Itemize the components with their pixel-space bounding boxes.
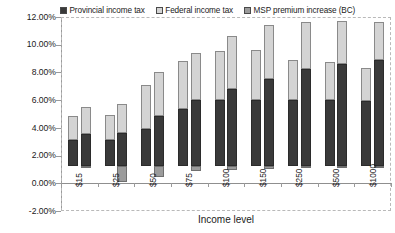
- bar-segment-federal: [81, 107, 91, 135]
- chart-container: Provincial income taxFederal income taxM…: [0, 0, 395, 233]
- bar-segment-msp: [81, 166, 91, 168]
- stacked-bar: [288, 0, 298, 194]
- x-axis-tick: [134, 183, 135, 187]
- bar-segment-federal: [227, 36, 237, 89]
- bar-segment-federal: [337, 21, 347, 64]
- bar-segment-provincial: [105, 140, 115, 166]
- bar-group: [61, 0, 98, 194]
- x-axis-tick: [208, 183, 209, 187]
- bar-segment-provincial: [215, 100, 225, 167]
- bar-segment-provincial: [191, 100, 201, 167]
- x-axis-category-label: $150: [259, 169, 267, 187]
- y-axis-tick-label: 12.00%: [4, 13, 56, 22]
- stacked-bar: [191, 0, 201, 194]
- bar-segment-federal: [374, 22, 384, 59]
- bar-segment-provincial: [178, 109, 188, 166]
- bar-segment-federal: [191, 53, 201, 100]
- bar-segment-provincial: [117, 133, 127, 166]
- bar-segment-federal: [105, 115, 115, 140]
- bar-group: [318, 0, 355, 194]
- bar-segment-federal: [117, 104, 127, 133]
- stacked-bar: [154, 0, 164, 194]
- bar-segment-provincial: [141, 129, 151, 166]
- stacked-bar: [105, 0, 115, 194]
- stacked-bar: [178, 0, 188, 194]
- x-axis-tick: [391, 183, 392, 187]
- stacked-bar: [301, 0, 311, 194]
- x-axis-category-label: $250: [295, 169, 303, 187]
- bar-segment-msp: [191, 166, 201, 171]
- bar-group: [281, 0, 318, 194]
- bar-segment-federal: [361, 68, 371, 101]
- bar-segment-federal: [154, 72, 164, 116]
- bar-group: [98, 0, 135, 194]
- bar-segment-federal: [251, 50, 261, 100]
- stacked-bar: [68, 0, 78, 194]
- bar-group: [244, 0, 281, 194]
- x-axis-category-label: $1000: [369, 164, 377, 187]
- bar-group: [134, 0, 171, 194]
- bar-segment-federal: [301, 22, 311, 69]
- y-axis-tick-label: 10.00%: [4, 40, 56, 49]
- x-axis-category-label: $100: [222, 169, 230, 187]
- x-axis-category-label: $75: [185, 173, 193, 187]
- bar-segment-provincial: [154, 116, 164, 166]
- bar-segment-provincial: [264, 79, 274, 166]
- bar-segment-provincial: [81, 134, 91, 166]
- x-axis-category-label: $50: [149, 173, 157, 187]
- stacked-bar: [81, 0, 91, 194]
- stacked-bar: [141, 0, 151, 194]
- y-axis-tick-label: 6.00%: [4, 96, 56, 105]
- bar-segment-provincial: [251, 100, 261, 167]
- bar-segment-provincial: [374, 60, 384, 167]
- x-axis-category-label: $15: [75, 173, 83, 187]
- x-axis-tick: [354, 183, 355, 187]
- bar-segment-federal: [178, 61, 188, 110]
- bar-segment-federal: [215, 51, 225, 100]
- x-axis-tick: [61, 183, 62, 187]
- stacked-bar: [325, 0, 335, 194]
- stacked-bar: [337, 0, 347, 194]
- bar-segment-provincial: [227, 89, 237, 167]
- bar-segment-federal: [288, 60, 298, 100]
- stacked-bar: [264, 0, 274, 194]
- y-axis-tick-label: -2.00%: [4, 207, 56, 216]
- y-axis-tick: [56, 211, 61, 212]
- x-axis-category-label: $500: [332, 169, 340, 187]
- x-axis-tick: [318, 183, 319, 187]
- x-axis-tick: [244, 183, 245, 187]
- y-axis-tick-label: 4.00%: [4, 124, 56, 133]
- bar-segment-provincial: [325, 100, 335, 167]
- stacked-bar: [117, 0, 127, 194]
- x-axis-tick: [171, 183, 172, 187]
- stacked-bar: [227, 0, 237, 194]
- bar-segment-provincial: [337, 64, 347, 167]
- y-axis-labels: 12.00%10.00%8.00%6.00%4.00%2.00%0.00%-2.…: [0, 0, 56, 233]
- bar-segment-federal: [264, 25, 274, 79]
- bar-segment-provincial: [301, 69, 311, 166]
- bar-segment-provincial: [361, 101, 371, 166]
- y-axis-tick-label: 8.00%: [4, 68, 56, 77]
- bar-segment-provincial: [288, 100, 298, 167]
- y-axis-tick-label: 0.00%: [4, 179, 56, 188]
- bar-group: [208, 0, 245, 194]
- x-axis-title: Income level: [61, 214, 391, 225]
- x-axis-tick: [98, 183, 99, 187]
- bar-segment-federal: [68, 116, 78, 140]
- bar-segment-federal: [325, 62, 335, 99]
- bar-segment-provincial: [68, 140, 78, 166]
- stacked-bar: [215, 0, 225, 194]
- stacked-bar: [251, 0, 261, 194]
- x-axis-category-label: $25: [112, 173, 120, 187]
- bar-segment-federal: [141, 85, 151, 129]
- bar-group: [171, 0, 208, 194]
- y-axis-tick-label: 2.00%: [4, 151, 56, 160]
- x-axis-tick: [281, 183, 282, 187]
